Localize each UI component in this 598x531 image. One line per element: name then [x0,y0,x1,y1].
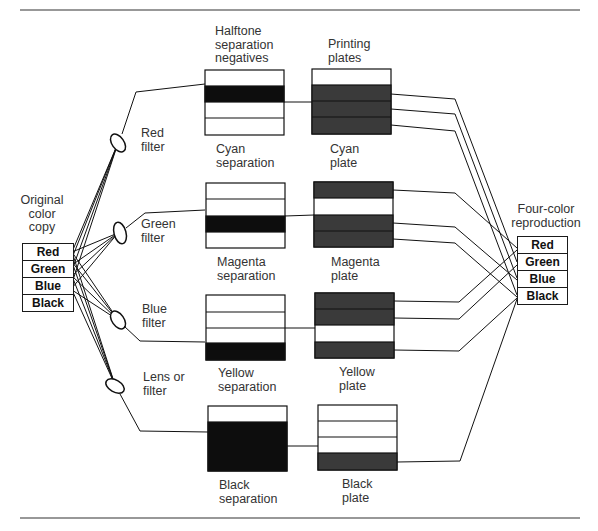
four-color-reproduction: Red Green Blue Black [517,236,568,305]
repro-color-black: Black [518,288,567,304]
blue-filter-label: Blue filter [142,303,167,330]
red-filter-label: Red filter [141,127,165,154]
yellow-separation-label: Yellow separation [218,367,276,394]
negative-to-plate-lines [284,102,318,446]
plates-column-header: Printing plates [328,38,370,65]
original-color-red: Red [23,244,73,261]
negatives-column-header: Halftone separation negatives [215,25,273,66]
green-filter-label: Green filter [141,218,176,245]
original-color-green: Green [23,261,73,278]
reproduction-label: Four-color reproduction [508,203,584,230]
blue-filter-icon [107,308,128,331]
cyan-separation-label: Cyan separation [216,143,274,170]
yellow-plate-label: Yellow plate [339,366,375,393]
red-filter-icon [107,131,128,154]
original-color-blue: Blue [23,278,73,295]
magenta-separation-label: Magenta separation [217,256,275,283]
magenta-plate-label: Magenta plate [331,256,380,283]
diagram-canvas [0,0,598,531]
black-plate-label: Black plate [342,478,373,505]
plate-to-reproduction-lines [391,94,517,462]
black-separation-label: Black separation [219,479,277,506]
light-rays [72,143,118,385]
lens-filter-icon [103,376,126,396]
repro-color-blue: Blue [518,271,567,288]
original-color-black: Black [23,295,73,311]
green-filter-icon [111,221,128,245]
original-copy-label: Original color copy [12,194,72,235]
lens-filter-label: Lens or filter [143,371,185,398]
repro-color-red: Red [518,237,567,254]
original-color-copy: Red Green Blue Black [22,243,74,312]
repro-color-green: Green [518,254,567,271]
cyan-plate-label: Cyan plate [330,143,359,170]
